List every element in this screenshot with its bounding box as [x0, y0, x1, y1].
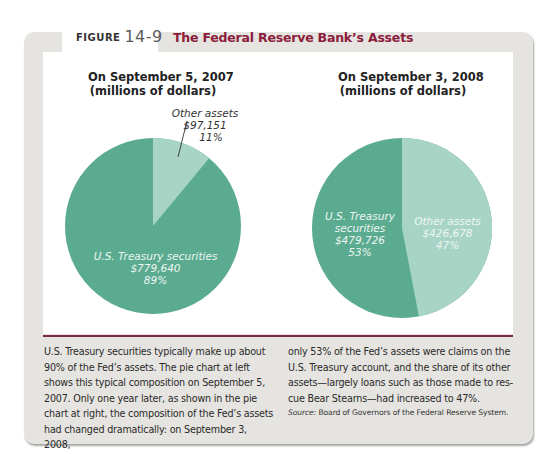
source-note: Source: Board of Governors of the Federa…: [288, 406, 518, 420]
caption-left-text: U.S. Treasury securities typically make …: [44, 344, 274, 453]
source-label: Source:: [288, 408, 316, 417]
label-2007-other-value: $97,151: [170, 119, 240, 131]
label-2008-treasury: U.S. Treasury securities $479,726 53%: [320, 210, 400, 258]
label-2007-treasury: U.S. Treasury securities $779,640 89%: [88, 250, 223, 286]
label-2007-treasury-percent: 89%: [88, 274, 223, 286]
label-2007-other-name: Other assets: [170, 107, 240, 119]
label-2007-other-percent: 11%: [170, 131, 240, 143]
label-2007-treasury-value: $779,640: [88, 262, 223, 274]
source-text: Board of Governors of the Federal Reserv…: [318, 408, 508, 417]
caption-right-text: only 53% of the Fed’s assets were claims…: [288, 344, 518, 406]
label-2008-treasury-name2: securities: [320, 222, 400, 234]
caption-divider: [43, 335, 513, 337]
label-2008-other-name: Other assets: [410, 215, 485, 227]
label-2008-other-value: $426,678: [410, 227, 485, 239]
label-2008-other-percent: 47%: [410, 239, 485, 251]
caption-left: U.S. Treasury securities typically make …: [44, 344, 274, 453]
label-2008-treasury-name1: U.S. Treasury: [320, 210, 400, 222]
label-2007-treasury-name: U.S. Treasury securities: [88, 250, 223, 262]
label-2008-treasury-percent: 53%: [320, 246, 400, 258]
label-2008-treasury-value: $479,726: [320, 234, 400, 246]
label-2007-other: Other assets $97,151 11%: [170, 107, 240, 143]
label-2008-other: Other assets $426,678 47%: [410, 215, 485, 251]
caption-right: only 53% of the Fed’s assets were claims…: [288, 344, 518, 420]
